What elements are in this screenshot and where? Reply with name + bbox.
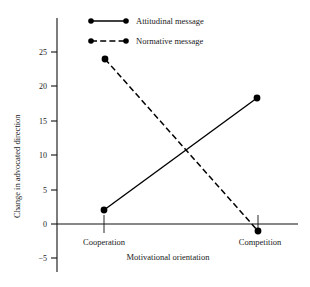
x-category-label-cooperation: Cooperation <box>83 237 126 247</box>
legend-label-normative: Normative message <box>136 36 203 46</box>
data-point-attitudinal-cooperation <box>101 207 108 214</box>
chart-figure: 25 20 15 10 5 0 −5 Change in advocated d… <box>0 0 310 287</box>
y-axis-title: Change in advocated direction <box>12 114 22 218</box>
legend-marker-right-attitudinal <box>123 18 129 24</box>
y-tick-label-15: 15 <box>39 117 47 126</box>
data-point-normative-competition <box>255 228 262 235</box>
y-tick-label-0: 0 <box>43 220 47 229</box>
data-point-attitudinal-competition <box>254 95 261 102</box>
y-tick-label-20: 20 <box>39 82 47 91</box>
x-axis-title: Motivational orientation <box>127 252 211 262</box>
y-tick-label-10: 10 <box>39 151 47 160</box>
legend-marker-left-attitudinal <box>88 18 94 24</box>
legend-marker-right-normative <box>123 38 129 44</box>
x-category-label-competition: Competition <box>239 237 282 247</box>
legend-marker-left-normative <box>88 38 94 44</box>
legend-label-attitudinal: Attitudinal message <box>136 16 204 26</box>
y-tick-label-25: 25 <box>39 48 47 57</box>
data-point-normative-cooperation <box>102 56 109 63</box>
line-chart: 25 20 15 10 5 0 −5 Change in advocated d… <box>0 0 310 287</box>
y-tick-label-minus5: −5 <box>38 254 47 263</box>
y-tick-label-5: 5 <box>43 186 47 195</box>
